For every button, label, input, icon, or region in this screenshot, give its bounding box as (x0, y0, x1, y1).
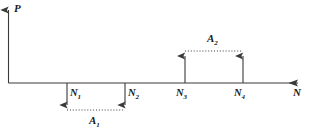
pn-diagram-figure: P N N1 N2 N3 N4 A1 A2 (0, 0, 310, 134)
tick-label-n2: N2 (127, 87, 140, 101)
p-axis-label: P (14, 2, 21, 14)
area-label-a2: A2 (206, 32, 218, 47)
n-axis-label: N (292, 86, 302, 98)
diagram-canvas: P N N1 N2 N3 N4 A1 A2 (0, 0, 310, 134)
tick-label-n3: N3 (175, 87, 188, 101)
tick-label-n1: N1 (69, 87, 81, 101)
area-label-a1: A1 (88, 114, 100, 129)
tick-label-n4: N4 (233, 87, 246, 101)
